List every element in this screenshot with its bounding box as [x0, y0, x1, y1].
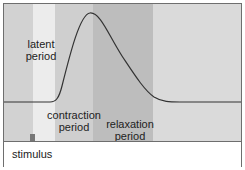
latent-label-line2: period — [18, 50, 64, 62]
stimulus-label: stimulus — [12, 148, 52, 160]
relaxation-label-line2: period — [98, 130, 162, 141]
contraction-label-line2: period — [42, 121, 106, 133]
contraction-label-line1: contraction — [42, 109, 106, 121]
contraction-period-label: contraction period — [42, 109, 106, 133]
twitch-diagram: latent period contraction period relaxat… — [3, 3, 242, 167]
stimulus-marker — [30, 134, 35, 141]
plot-area: latent period contraction period relaxat… — [4, 4, 241, 141]
relaxation-period-label: relaxation period — [98, 118, 162, 141]
relaxation-label-line1: relaxation — [98, 118, 162, 130]
latent-period-label: latent period — [18, 38, 64, 62]
stimulus-row: stimulus — [4, 141, 241, 167]
latent-label-line1: latent — [18, 38, 64, 50]
